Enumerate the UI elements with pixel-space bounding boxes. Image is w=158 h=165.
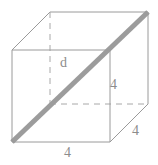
cube-drawing: [0, 0, 158, 165]
label-diagonal-d: d: [60, 56, 67, 70]
edge-connect-bottom-right: [110, 104, 148, 142]
label-edge-bottom: 4: [64, 146, 71, 160]
label-edge-right: 4: [110, 78, 117, 92]
edge-connect-top-left: [12, 12, 50, 50]
label-edge-depth: 4: [132, 124, 139, 138]
cube-figure: d 4 4 4: [0, 0, 158, 165]
space-diagonal: [12, 12, 148, 142]
